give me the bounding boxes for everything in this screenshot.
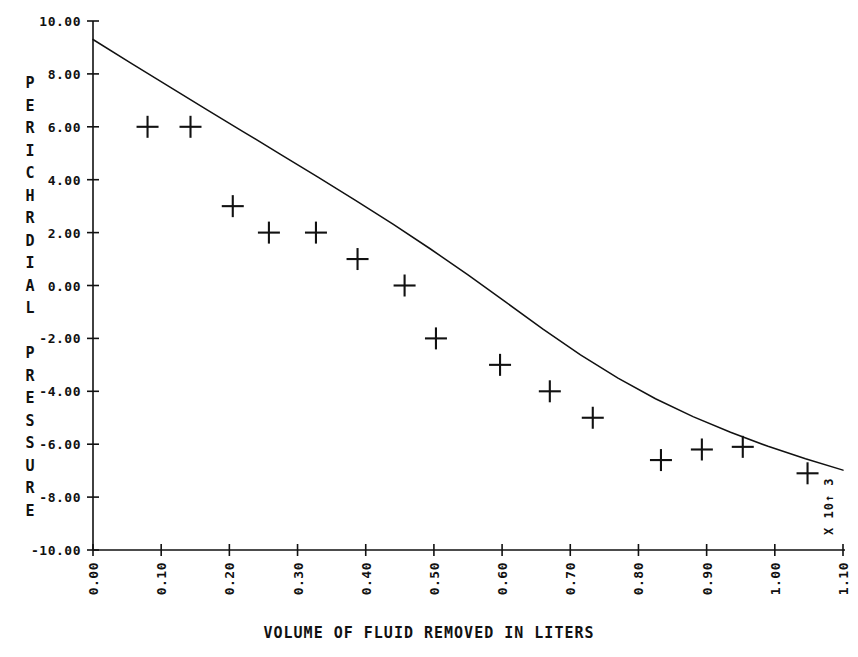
- data-point-markers: [137, 116, 819, 484]
- data-point-marker: [582, 407, 604, 429]
- data-point-marker: [258, 222, 280, 244]
- y-axis-title-letter: R: [25, 367, 35, 385]
- data-point-marker: [394, 275, 416, 297]
- y-axis-title-letter: E: [25, 97, 34, 115]
- y-axis-tick-label: -6.00: [39, 437, 81, 452]
- x-axis-tick-label: 0.50: [427, 562, 442, 595]
- x-axis-tick-label: 0.20: [222, 562, 237, 595]
- x-axis-tick-label: 1.00: [768, 562, 783, 595]
- data-point-marker: [539, 380, 561, 402]
- data-point-marker: [650, 449, 672, 471]
- x-axis-tick-label: 0.60: [495, 562, 510, 595]
- y-axis-title-letter: L: [25, 299, 34, 317]
- y-axis-title-letter: I: [25, 142, 34, 160]
- y-axis-title-letter: P: [25, 74, 34, 92]
- x-axis-tick-label: 0.30: [291, 562, 306, 595]
- y-axis-tick-label: 2.00: [48, 226, 81, 241]
- y-axis-tick-label: -2.00: [39, 331, 81, 346]
- y-axis-tick-label: 6.00: [48, 120, 81, 135]
- x-axis-tick-label: 1.10: [836, 562, 851, 595]
- data-point-marker: [305, 222, 327, 244]
- fitted-curve: [93, 40, 843, 471]
- data-point-marker: [691, 438, 713, 460]
- y-axis-title-letter: P: [25, 344, 34, 362]
- plot-svg: 10.008.006.004.002.000.00-2.00-4.00-6.00…: [0, 0, 858, 657]
- data-point-marker: [425, 327, 447, 349]
- y-axis-title-letter: E: [25, 389, 34, 407]
- y-axis-title-letter: A: [25, 277, 34, 295]
- y-axis-title: PERICHRDIALPRESSURE: [25, 74, 35, 520]
- y-axis-title-letter: E: [25, 502, 34, 520]
- x-axis-title: VOLUME OF FLUID REMOVED IN LITERS: [263, 624, 594, 642]
- y-axis-title-letter: R: [25, 119, 35, 137]
- y-axis-title-letter: S: [25, 434, 34, 452]
- y-axis-tick-label: 4.00: [48, 173, 81, 188]
- data-point-marker: [797, 462, 819, 484]
- data-point-marker: [137, 116, 159, 138]
- y-axis-title-letter: H: [25, 187, 34, 205]
- y-axis-title-letter: R: [25, 479, 35, 497]
- y-axis-tick-label: -8.00: [39, 490, 81, 505]
- y-axis-title-letter: S: [25, 412, 34, 430]
- data-point-marker: [489, 354, 511, 376]
- data-point-marker: [222, 195, 244, 217]
- x-axis-tick-label: 0.40: [359, 562, 374, 595]
- x-axis-tick-label: 0.80: [631, 562, 646, 595]
- data-point-marker: [180, 116, 202, 138]
- x-axis-exponent-label: X 10↑ 3: [822, 477, 836, 535]
- y-axis-tick-label: 10.00: [39, 14, 81, 29]
- y-axis-title-letter: I: [25, 254, 34, 272]
- y-axis-tick-label: 8.00: [48, 67, 81, 82]
- y-axis-title-letter: U: [25, 457, 34, 475]
- data-point-marker: [347, 248, 369, 270]
- x-axis-tick-label: 0.10: [154, 562, 169, 595]
- y-axis-tick-labels: 10.008.006.004.002.000.00-2.00-4.00-6.00…: [31, 14, 81, 558]
- x-axis-tick-label: 0.70: [563, 562, 578, 595]
- y-axis-tick-label: -10.00: [31, 543, 81, 558]
- x-axis-tick-label: 0.90: [700, 562, 715, 595]
- y-axis-title-letter: R: [25, 209, 35, 227]
- x-axis-tick-labels: 0.000.100.200.300.400.500.600.700.800.90…: [86, 562, 851, 595]
- y-axis-title-letter: D: [25, 232, 34, 250]
- chart-canvas: 10.008.006.004.002.000.00-2.00-4.00-6.00…: [0, 0, 858, 657]
- x-axis-tick-label: 0.00: [86, 562, 101, 595]
- y-axis-tick-label: -4.00: [39, 384, 81, 399]
- y-axis-tick-label: 0.00: [48, 279, 81, 294]
- y-axis-title-letter: C: [25, 164, 34, 182]
